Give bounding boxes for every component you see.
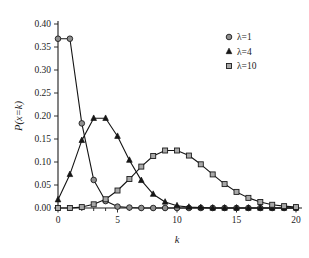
y-axis-title: P(x=k) xyxy=(13,101,25,132)
x-tick-label: 5 xyxy=(115,215,120,225)
y-tick-label: 0.15 xyxy=(34,134,51,144)
data-point-circle-marker xyxy=(91,177,97,183)
chart-legend: λ=1λ=4λ=10 xyxy=(226,32,257,71)
data-point-square-marker xyxy=(56,206,61,211)
legend-marker-circle xyxy=(226,34,232,40)
data-point-circle-marker xyxy=(150,205,156,211)
data-series-1 xyxy=(55,36,299,211)
data-point-square-marker xyxy=(67,206,72,211)
y-tick-label: 0.40 xyxy=(34,19,51,29)
data-point-square-marker xyxy=(282,204,287,209)
y-axis-tickmarks xyxy=(54,24,58,208)
series-line xyxy=(58,118,296,208)
data-point-circle-marker xyxy=(162,205,168,211)
data-point-square-marker xyxy=(127,177,132,182)
data-point-circle-marker xyxy=(127,205,133,211)
data-point-square-marker xyxy=(234,189,239,194)
data-point-square-marker xyxy=(258,200,263,205)
x-tick-label: 20 xyxy=(291,215,301,225)
legend-label: λ=10 xyxy=(237,61,257,71)
data-series-layer xyxy=(55,36,299,211)
data-point-circle-marker xyxy=(79,121,85,127)
data-point-square-marker xyxy=(222,182,227,187)
data-point-square-marker xyxy=(163,148,168,153)
data-point-triangle-marker xyxy=(103,115,109,121)
chart-canvas: 0.000.050.100.150.200.250.300.350.40 051… xyxy=(0,0,309,258)
y-tick-label: 0.20 xyxy=(34,111,51,121)
data-point-circle-marker xyxy=(67,36,73,42)
data-point-square-marker xyxy=(91,202,96,207)
x-axis-title: k xyxy=(175,234,180,245)
data-point-square-marker xyxy=(210,172,215,177)
y-tick-label: 0.10 xyxy=(34,157,51,167)
data-point-square-marker xyxy=(79,205,84,210)
data-point-square-marker xyxy=(270,202,275,207)
legend-marker-square xyxy=(227,64,232,69)
data-point-square-marker xyxy=(198,162,203,167)
x-tick-label: 0 xyxy=(56,215,61,225)
poisson-pmf-figure: 0.000.050.100.150.200.250.300.350.40 051… xyxy=(0,0,309,258)
data-point-square-marker xyxy=(294,205,299,210)
y-axis-tick-labels: 0.000.050.100.150.200.250.300.350.40 xyxy=(34,19,51,213)
data-point-square-marker xyxy=(186,153,191,158)
legend-label: λ=4 xyxy=(237,47,252,57)
legend-marker-triangle xyxy=(226,48,232,54)
y-tick-label: 0.05 xyxy=(34,180,51,190)
data-point-triangle-marker xyxy=(91,115,97,121)
data-series-2 xyxy=(55,115,299,210)
data-point-square-marker xyxy=(139,164,144,169)
x-tick-label: 15 xyxy=(232,215,242,225)
data-point-triangle-marker xyxy=(127,157,133,163)
data-point-triangle-marker xyxy=(55,196,61,202)
y-tick-label: 0.35 xyxy=(34,42,51,52)
y-tick-label: 0.30 xyxy=(34,65,51,75)
x-axis-tick-labels: 05101520 xyxy=(56,215,301,225)
data-point-circle-marker xyxy=(139,205,145,211)
data-point-square-marker xyxy=(151,154,156,159)
data-point-square-marker xyxy=(103,197,108,202)
data-point-square-marker xyxy=(246,195,251,200)
x-tick-label: 10 xyxy=(172,215,182,225)
data-point-triangle-marker xyxy=(162,199,168,205)
data-point-square-marker xyxy=(115,188,120,193)
data-point-circle-marker xyxy=(115,204,121,210)
data-point-square-marker xyxy=(175,148,180,153)
y-tick-label: 0.00 xyxy=(34,203,51,213)
data-point-circle-marker xyxy=(55,36,61,42)
y-tick-label: 0.25 xyxy=(34,88,51,98)
legend-label: λ=1 xyxy=(237,32,252,42)
data-point-triangle-marker xyxy=(67,171,73,177)
